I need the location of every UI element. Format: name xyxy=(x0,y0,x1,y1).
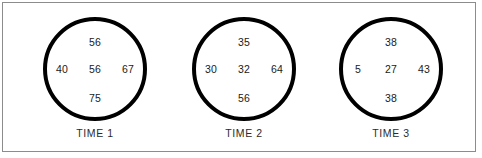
circle-3-label: TIME 3 xyxy=(321,127,461,139)
circle-3-value-left: 5 xyxy=(343,64,373,75)
circle-3-value-right: 43 xyxy=(409,64,439,75)
circle-1-value-right: 67 xyxy=(113,64,143,75)
circle-2-label: TIME 2 xyxy=(174,127,314,139)
circle-group-time-2: 35 30 32 64 56 TIME 2 xyxy=(174,17,314,149)
circle-1-label: TIME 1 xyxy=(25,127,165,139)
circle-1-value-bottom: 75 xyxy=(75,93,115,104)
figure-frame: 56 40 56 67 75 TIME 1 35 30 32 64 56 TIM… xyxy=(2,2,476,152)
circle-3-value-bottom: 38 xyxy=(371,93,411,104)
circle-diagram-row: 56 40 56 67 75 TIME 1 35 30 32 64 56 TIM… xyxy=(3,3,477,153)
circle-2-value-left: 30 xyxy=(196,64,226,75)
circle-3-value-center: 27 xyxy=(371,64,411,75)
circle-group-time-3: 38 5 27 43 38 TIME 3 xyxy=(321,17,461,149)
circle-2-value-bottom: 56 xyxy=(224,93,264,104)
circle-2-value-center: 32 xyxy=(224,64,264,75)
circle-2-value-top: 35 xyxy=(224,37,264,48)
circle-group-time-1: 56 40 56 67 75 TIME 1 xyxy=(25,17,165,149)
circle-3-value-top: 38 xyxy=(371,37,411,48)
circle-1-value-center: 56 xyxy=(75,64,115,75)
circle-1-value-top: 56 xyxy=(75,37,115,48)
circle-1-value-left: 40 xyxy=(47,64,77,75)
circle-2-value-right: 64 xyxy=(262,64,292,75)
